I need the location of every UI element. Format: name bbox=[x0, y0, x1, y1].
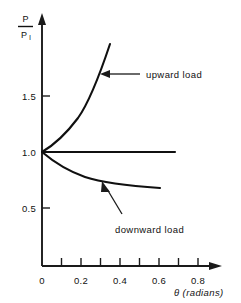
data-curves bbox=[42, 44, 175, 188]
x-tick-label-0.6: 0.6 bbox=[152, 275, 166, 286]
x-axis-ticks bbox=[62, 258, 199, 266]
curve-upward-load bbox=[42, 44, 110, 152]
downward-load-label: downward load bbox=[115, 224, 184, 235]
upward-load-label: upward load bbox=[146, 69, 202, 80]
y-axis-arrowhead bbox=[38, 13, 46, 25]
chart-figure: P P l 1.5 1.0 0.5 bbox=[0, 0, 241, 303]
x-axis-title: θ (radians) bbox=[174, 287, 224, 298]
y-axis-label: P P l bbox=[18, 14, 33, 41]
y-tick-label-1.0: 1.0 bbox=[22, 147, 36, 158]
x-axis-tick-labels: 0 0.2 0.4 0.6 0.8 bbox=[39, 275, 205, 286]
x-tick-label-0: 0 bbox=[39, 275, 45, 286]
x-axis-arrowhead bbox=[209, 262, 222, 270]
x-tick-label-0.4: 0.4 bbox=[113, 275, 127, 286]
chart-svg: P P l 1.5 1.0 0.5 bbox=[0, 0, 241, 303]
y-axis-label-denominator-subscript: l bbox=[29, 34, 31, 41]
y-axis-tick-labels: 1.5 1.0 0.5 bbox=[22, 91, 36, 214]
y-tick-label-0.5: 0.5 bbox=[22, 203, 36, 214]
downward-load-leader-line bbox=[107, 189, 122, 214]
x-tick-label-0.2: 0.2 bbox=[74, 275, 88, 286]
annotation-upward-load: upward load bbox=[100, 69, 202, 80]
y-axis-label-numerator: P bbox=[22, 14, 28, 24]
x-tick-label-0.8: 0.8 bbox=[191, 275, 205, 286]
annotation-downward-load: downward load bbox=[101, 181, 184, 235]
y-tick-label-1.5: 1.5 bbox=[22, 91, 36, 102]
y-axis-label-denominator: P bbox=[21, 30, 27, 40]
curve-downward-load bbox=[42, 152, 160, 188]
